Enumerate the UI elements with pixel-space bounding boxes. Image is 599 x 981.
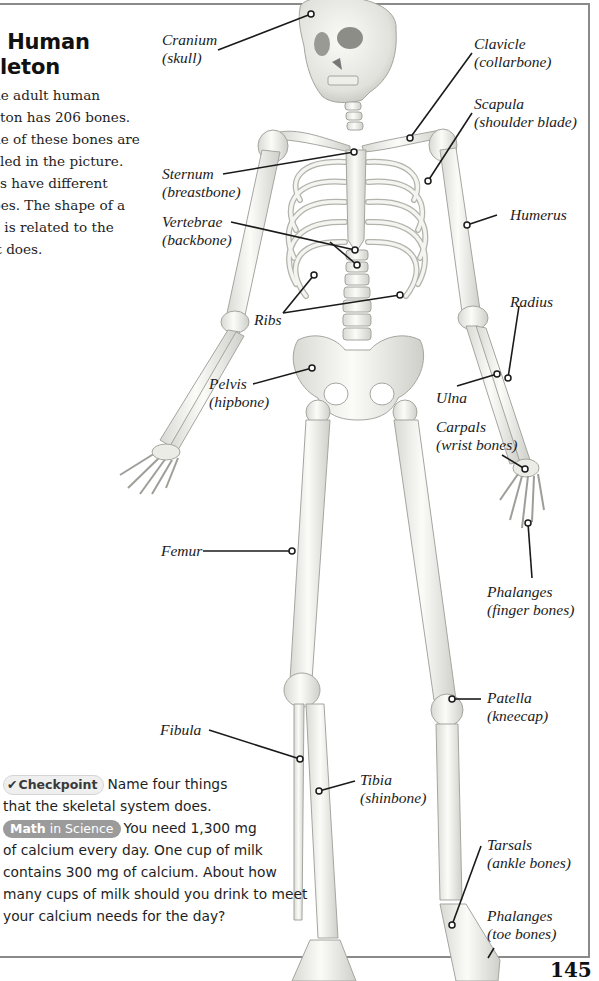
label-vertebrae: Vertebrae (backbone) [162,213,232,249]
label-name: Humerus [510,206,567,224]
checkpoint-badge-label: Checkpoint [18,777,97,792]
math-question-5: your calcium needs for the day? [3,905,343,927]
math-badge-rest: in Science [46,821,114,836]
label-tibia: Tibia (shinbone) [360,771,426,807]
checkmark-icon: ✔ [7,777,17,792]
math-question-3: contains 300 mg of calcium. About how [3,861,343,883]
label-common: (finger bones) [487,601,574,619]
checkpoint-question-1: Name four things [107,776,227,792]
label-name: Scapula [474,95,577,113]
label-common: (toe bones) [487,925,556,943]
checkpoint-line: ✔CheckpointName four things [3,773,343,795]
label-common: (skull) [162,49,217,67]
label-name: Phalanges [487,583,574,601]
label-humerus: Humerus [510,206,567,224]
math-question-2: of calcium every day. One cup of milk [3,839,343,861]
label-scapula: Scapula (shoulder blade) [474,95,577,131]
label-common: (ankle bones) [487,854,571,872]
label-phalanges-hand: Phalanges (finger bones) [487,583,574,619]
label-radius: Radius [510,293,553,311]
page-number: 145 [550,958,592,981]
label-name: Sternum [162,165,241,183]
label-common: (shoulder blade) [474,113,577,131]
label-common: (hipbone) [209,393,269,411]
label-name: Vertebrae [162,213,232,231]
label-common: (wrist bones) [436,436,517,454]
math-in-science-badge: Math in Science [3,820,121,838]
label-patella: Patella (kneecap) [487,689,548,725]
math-question-4: many cups of milk should you drink to me… [3,883,343,905]
math-question-1: You need 1,300 mg [124,820,257,836]
label-name: Carpals [436,418,517,436]
checkpoint-section: ✔CheckpointName four things that the ske… [3,773,343,927]
label-ulna: Ulna [436,389,467,407]
label-name: Ulna [436,389,467,407]
label-name: Tibia [360,771,426,789]
label-ribs: Ribs [254,311,282,329]
label-femur: Femur [161,542,202,560]
label-cranium: Cranium (skull) [162,31,217,67]
label-fibula: Fibula [160,721,201,739]
label-tarsals: Tarsals (ankle bones) [487,836,571,872]
label-name: Clavicle [474,35,551,53]
label-sternum: Sternum (breastbone) [162,165,241,201]
label-common: (shinbone) [360,789,426,807]
label-clavicle: Clavicle (collarbone) [474,35,551,71]
label-name: Phalanges [487,907,556,925]
label-common: (kneecap) [487,707,548,725]
math-badge-bold: Math [10,821,46,836]
math-line: Math in ScienceYou need 1,300 mg [3,817,343,839]
label-common: (backbone) [162,231,232,249]
label-common: (collarbone) [474,53,551,71]
label-name: Cranium [162,31,217,49]
checkpoint-question-2: that the skeletal system does. [3,795,343,817]
label-name: Tarsals [487,836,571,854]
checkpoint-badge: ✔Checkpoint [3,775,104,795]
label-name: Femur [161,542,202,560]
label-name: Patella [487,689,548,707]
label-name: Pelvis [209,375,269,393]
label-carpals: Carpals (wrist bones) [436,418,517,454]
label-name: Radius [510,293,553,311]
label-phalanges-foot: Phalanges (toe bones) [487,907,556,943]
label-pelvis: Pelvis (hipbone) [209,375,269,411]
label-name: Fibula [160,721,201,739]
label-name: Ribs [254,311,282,329]
label-common: (breastbone) [162,183,241,201]
